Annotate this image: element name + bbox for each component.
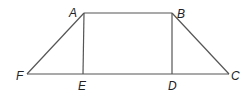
label-d: D	[168, 79, 177, 93]
label-f: F	[16, 69, 24, 83]
label-c: C	[231, 69, 240, 83]
trapezoid-diagram: A B C D E F	[0, 0, 252, 95]
label-b: B	[177, 7, 185, 21]
label-e: E	[78, 79, 87, 93]
label-a: A	[68, 6, 77, 20]
segment-fa	[27, 13, 84, 74]
segment-bc	[172, 13, 229, 74]
segment-ae	[83, 13, 84, 74]
